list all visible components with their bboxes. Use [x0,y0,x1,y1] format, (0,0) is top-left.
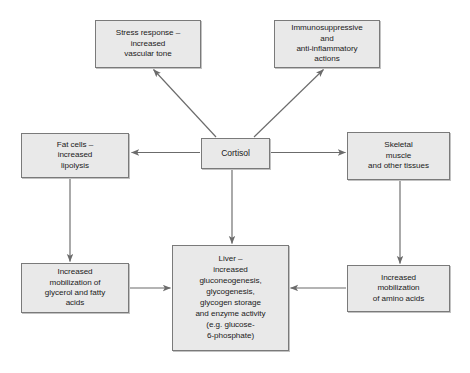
node-immunosuppressive-anti-inflammatory[interactable]: Immunosuppressive and anti-inflammatory … [274,20,380,68]
node-skeletal-muscle[interactable]: Skeletal muscle and other tissues [347,132,450,180]
arrow-cortisol-to-stress-response [154,70,217,138]
arrow-cortisol-to-immunosuppressive [254,70,324,138]
node-fat-cells[interactable]: Fat cells – increased lipolysis [21,133,129,178]
node-increased-mobilization-glycerol-fatty-acids[interactable]: Increased mobilization of glycerol and f… [21,263,129,313]
node-liver[interactable]: Liver – increased gluconeogenesis, glyco… [172,245,289,351]
node-stress-response[interactable]: Stress response – increased vascular ton… [95,20,201,68]
diagram-canvas: Stress response – increased vascular ton… [0,0,470,373]
node-cortisol[interactable]: Cortisol [201,138,270,169]
node-increased-mobilization-amino-acids[interactable]: Increased mobilization of amino acids [347,265,450,312]
